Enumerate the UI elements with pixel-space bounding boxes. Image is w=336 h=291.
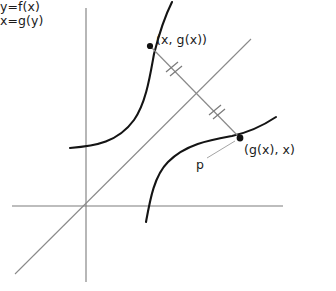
perpendicular-segment [151,47,239,137]
p-leader-line [207,141,235,158]
upper-curve [70,2,172,148]
identity-line-y-equals-x [15,39,251,274]
perpendicular-segment-group [151,47,239,137]
point-lower-dot [237,135,244,142]
point-upper-dot [147,43,153,49]
inverse-function-diagram: (x, g(x)) (g(x), x) y=f(x) x=g(y) p [0,0,336,291]
label-upper-point: (x, g(x)) [156,33,207,47]
label-perpendicular-segment: p [196,158,204,172]
axes-group [12,8,283,282]
label-lower-point: (g(x), x) [244,143,295,157]
